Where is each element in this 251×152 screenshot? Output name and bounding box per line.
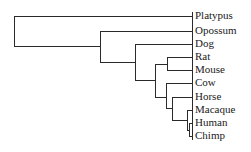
leaf-label-platypus: Platypus	[195, 10, 233, 21]
leaf-label-chimp: Chimp	[195, 130, 225, 141]
leaf-label-dog: Dog	[195, 38, 214, 49]
leaf-label-horse: Horse	[195, 91, 221, 102]
leaf-label-cow: Cow	[195, 77, 216, 88]
leaf-label-mouse: Mouse	[195, 64, 225, 75]
leaf-label-human: Human	[195, 117, 227, 128]
leaf-label-macaque: Macaque	[195, 104, 235, 115]
leaf-label-opossum: Opossum	[195, 25, 237, 36]
leaf-label-rat: Rat	[195, 51, 210, 62]
